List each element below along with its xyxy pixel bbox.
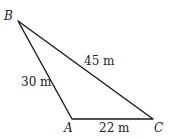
side-label-ac: 22 m	[99, 121, 130, 135]
triangle-diagram: B A C 45 m 30 m 22 m	[0, 0, 173, 138]
side-label-ba: 30 m	[21, 75, 52, 89]
triangle-abc	[18, 21, 153, 119]
vertex-label-b: B	[3, 9, 13, 23]
vertex-label-c: C	[154, 121, 163, 135]
vertex-label-a: A	[63, 121, 73, 135]
side-label-bc: 45 m	[84, 54, 115, 68]
